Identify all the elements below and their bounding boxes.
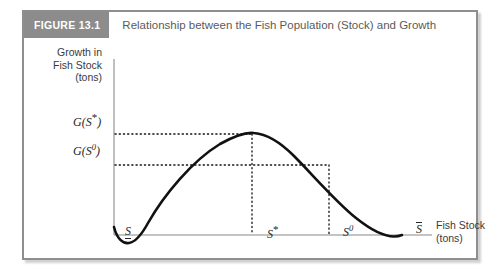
figure-header: FIGURE 13.1 Relationship between the Fis… — [24, 12, 476, 38]
x-axis-label-line1: Fish Stock — [436, 219, 485, 231]
x-tick-label-s-underbar: S — [125, 224, 131, 239]
figure-title: Relationship between the Fish Population… — [109, 12, 436, 38]
y-tick-label-g-s-star: G(S*) — [73, 111, 101, 130]
x-axis-label-line2: (tons) — [436, 232, 463, 244]
x-tick-label-s-overbar: S — [416, 222, 422, 237]
s-overbar-symbol: S — [416, 222, 422, 236]
y-axis-label-line2: Fish Stock — [53, 59, 102, 71]
g-s-star-base: G(S — [73, 115, 92, 129]
g-s-zero-close: ) — [96, 144, 100, 158]
figure-frame: FIGURE 13.1 Relationship between the Fis… — [22, 10, 478, 260]
y-tick-label-g-s-zero: G(S0) — [73, 142, 100, 159]
x-tick-label-s-star: S* — [267, 223, 279, 242]
y-axis-label-line1: Growth in — [57, 46, 102, 58]
x-axis-label: Fish Stock (tons) — [436, 219, 485, 244]
plot-area: Growth in Fish Stock (tons) Fish Stock (… — [24, 38, 476, 262]
growth-curve — [114, 133, 402, 243]
g-s-star-close: ) — [97, 115, 101, 129]
figure-number-badge: FIGURE 13.1 — [24, 12, 109, 38]
g-s-zero-base: G(S — [73, 144, 92, 158]
y-axis-label-line3: (tons) — [75, 71, 102, 83]
s-star-superscript: * — [273, 223, 279, 235]
y-axis-label: Growth in Fish Stock (tons) — [53, 46, 102, 84]
s-underbar-symbol: S — [125, 225, 131, 239]
s-zero-superscript: 0 — [349, 223, 353, 233]
x-tick-label-s-zero: S0 — [343, 223, 353, 240]
